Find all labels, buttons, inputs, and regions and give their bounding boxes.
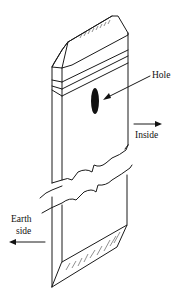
- bottom-face-hatching: [66, 232, 120, 270]
- diagram-canvas: Hole Inside Ear: [0, 0, 188, 302]
- earth-side-label-line1: Earth: [11, 214, 32, 224]
- hole-label: Hole: [152, 70, 170, 80]
- bands: [52, 50, 128, 96]
- top-cap: [52, 16, 128, 68]
- hole-leader-arrow: [103, 76, 150, 100]
- top-face-hatching: [80, 20, 110, 38]
- inside-label: Inside: [135, 130, 158, 140]
- bottom-bevel: [52, 225, 127, 287]
- inside-arrow: [134, 121, 162, 127]
- earth-side-arrow: [9, 239, 45, 245]
- hole: [91, 88, 99, 114]
- break-lines: [40, 145, 132, 213]
- earth-side-label-line2: side: [16, 226, 31, 236]
